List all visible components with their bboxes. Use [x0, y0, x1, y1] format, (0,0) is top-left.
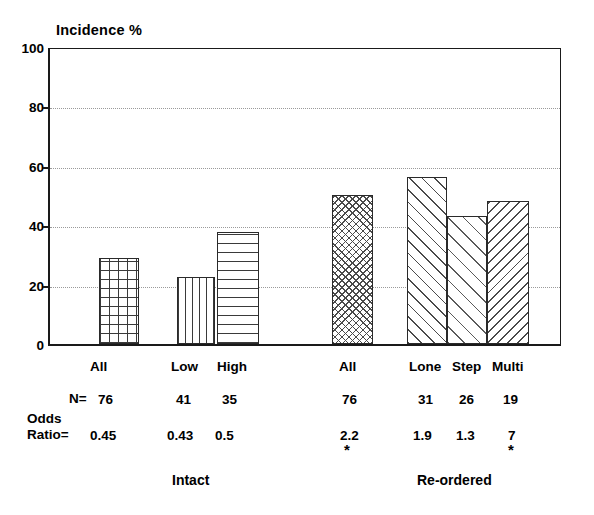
- n-row-label: N=: [69, 392, 87, 406]
- bar-chart-figure: Incidence % 100 80 60 40 20 0 All Low Hi…: [0, 0, 594, 515]
- odds-value-reordered-step: 1.3: [456, 428, 475, 443]
- significance-star-reordered-all: *: [344, 446, 350, 454]
- n-value-intact-low: 41: [176, 392, 191, 407]
- gridline-80: [50, 108, 560, 109]
- bar-intact-all: [99, 258, 139, 344]
- bar-intact-low: [177, 277, 215, 344]
- y-tick-label-40: 40: [6, 219, 44, 234]
- x-label-intact-low: Low: [171, 359, 198, 374]
- group-label-intact: Intact: [172, 472, 209, 488]
- n-value-intact-all: 76: [98, 392, 113, 407]
- bar-reordered-lone: [407, 177, 447, 344]
- y-tick-label-60: 60: [6, 160, 44, 175]
- bar-reordered-all: [332, 195, 373, 344]
- odds-row-label-line1: Odds: [27, 412, 62, 426]
- x-label-reordered-lone: Lone: [409, 359, 441, 374]
- significance-star-reordered-multi: *: [508, 446, 514, 454]
- x-label-intact-all: All: [90, 359, 107, 374]
- n-value-intact-high: 35: [222, 392, 237, 407]
- odds-value-reordered-lone: 1.9: [413, 428, 432, 443]
- bar-reordered-multi: [487, 201, 529, 344]
- group-label-reordered: Re-ordered: [417, 472, 492, 488]
- n-value-reordered-multi: 19: [503, 392, 518, 407]
- x-label-intact-high: High: [217, 359, 247, 374]
- y-axis-title: Incidence %: [56, 22, 142, 38]
- odds-value-intact-low: 0.43: [167, 428, 193, 443]
- bar-reordered-step: [447, 216, 487, 344]
- n-value-reordered-step: 26: [459, 392, 474, 407]
- x-label-reordered-all: All: [339, 359, 356, 374]
- y-tick-label-80: 80: [6, 100, 44, 115]
- y-tick-label-100: 100: [6, 41, 44, 56]
- n-value-reordered-lone: 31: [418, 392, 433, 407]
- y-tick-label-0: 0: [6, 338, 44, 353]
- odds-row-label-line2: Ratio=: [27, 428, 69, 442]
- odds-value-intact-all: 0.45: [90, 428, 116, 443]
- gridline-60: [50, 168, 560, 169]
- x-label-reordered-step: Step: [452, 359, 481, 374]
- odds-value-intact-high: 0.5: [215, 428, 234, 443]
- n-value-reordered-all: 76: [342, 392, 357, 407]
- plot-area: [48, 48, 561, 346]
- bar-intact-high: [217, 232, 259, 344]
- x-label-reordered-multi: Multi: [492, 359, 524, 374]
- y-tick-label-20: 20: [6, 279, 44, 294]
